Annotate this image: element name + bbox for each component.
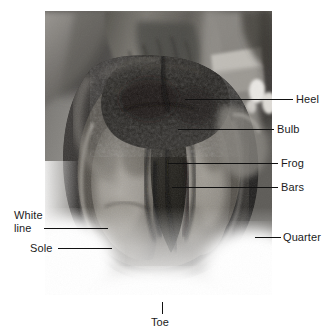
label-white-line-row1: White bbox=[14, 209, 43, 222]
leader-line-bars bbox=[172, 187, 278, 188]
label-toe: Toe bbox=[151, 316, 169, 329]
leader-line-frog bbox=[168, 163, 278, 164]
label-bulb: Bulb bbox=[277, 123, 299, 136]
label-sole: Sole bbox=[30, 242, 52, 255]
leader-line-sole bbox=[58, 248, 112, 249]
hoof-photograph bbox=[45, 11, 272, 295]
label-quarter: Quarter bbox=[283, 231, 321, 244]
leader-line-white-line bbox=[44, 228, 108, 229]
leader-line-toe bbox=[162, 302, 163, 314]
leader-line-quarter bbox=[255, 237, 281, 238]
hoof-photo-svg bbox=[45, 11, 272, 295]
label-frog: Frog bbox=[281, 157, 304, 170]
label-heel: Heel bbox=[296, 93, 319, 106]
label-bars: Bars bbox=[281, 181, 304, 194]
leader-line-bulb bbox=[178, 129, 274, 130]
leader-line-heel bbox=[185, 99, 293, 100]
figure-root: Heel Bulb Frog Bars Quarter White line S… bbox=[0, 0, 330, 335]
label-white-line-row2: line bbox=[14, 222, 32, 235]
